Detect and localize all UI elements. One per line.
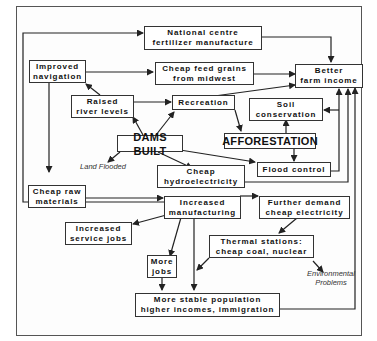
node-label: higher incomes, immigration: [141, 305, 275, 315]
node-label: Increased: [76, 224, 121, 234]
node-label: cheap electricity: [266, 208, 344, 218]
node-label: Recreation: [178, 98, 228, 108]
node-label: More: [151, 257, 174, 267]
node-thermal-stations: Thermal stations: cheap coal, nuclear: [209, 235, 314, 258]
node-dams-built[interactable]: DAMS BUILT: [117, 135, 183, 152]
node-label: Raised: [87, 97, 119, 107]
node-label: AFFORESTATION: [222, 134, 318, 148]
node-label: fertilizer manufacture: [152, 38, 253, 48]
node-label: National centre: [167, 28, 238, 38]
node-flood-control: Flood control: [257, 162, 331, 177]
node-cheap-hydroelectricity: Cheap hydroelectricity: [157, 165, 245, 188]
node-label: cheap coal, nuclear: [216, 247, 307, 257]
node-label: Flood control: [263, 165, 326, 175]
node-label: from midwest: [173, 74, 236, 84]
node-improved-navigation: Improved navigation: [29, 60, 86, 83]
node-label: hydroelectricity: [164, 177, 238, 187]
node-soil-conservation: Soil conservation: [249, 98, 323, 121]
node-label: Cheap: [187, 167, 216, 177]
node-national-centre: National centre fertilizer manufacture: [144, 26, 262, 50]
node-label: jobs: [152, 267, 172, 277]
node-cheap-raw-materials: Cheap raw materials: [28, 185, 86, 208]
node-label: river levels: [76, 107, 129, 117]
node-label: Better: [315, 66, 344, 76]
node-label: Further demand: [268, 198, 342, 208]
node-increased-manufacturing: Increased manufacturing: [164, 196, 241, 219]
node-label: More stable population: [154, 295, 261, 305]
node-more-jobs: More jobs: [147, 255, 177, 278]
node-further-demand: Further demand cheap electricity: [259, 196, 350, 219]
node-label: conservation: [256, 110, 317, 120]
node-label: DAMS BUILT: [118, 130, 182, 158]
node-increased-service-jobs: Increased service jobs: [65, 222, 132, 245]
node-label: service jobs: [70, 234, 127, 244]
node-afforestation[interactable]: AFFORESTATION: [224, 133, 316, 149]
node-raised-river-levels: Raised river levels: [71, 95, 134, 118]
node-label: materials: [35, 197, 78, 207]
node-label: Thermal stations:: [221, 237, 303, 247]
node-label: Cheap raw: [33, 187, 82, 197]
node-label: navigation: [33, 72, 82, 82]
node-label: manufacturing: [169, 208, 236, 218]
node-label: Soil: [277, 100, 295, 110]
node-stable-population: More stable population higher incomes, i…: [135, 293, 280, 317]
node-cheap-feed-grains: Cheap feed grains from midwest: [155, 62, 254, 85]
node-label: Cheap feed grains: [162, 64, 247, 74]
node-better-farm-income: Better farm income: [295, 64, 363, 88]
node-recreation: Recreation: [172, 95, 235, 110]
node-label: Increased: [180, 198, 225, 208]
note-environmental-problems: Environmental Problems: [296, 269, 366, 287]
note-land-flooded: Land Flooded: [73, 162, 133, 171]
node-label: farm income: [300, 76, 357, 86]
node-label: Improved: [36, 62, 79, 72]
